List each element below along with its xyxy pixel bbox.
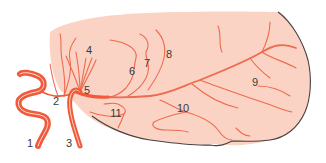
brain-fill	[50, 12, 310, 146]
label-2: 2	[53, 96, 59, 107]
label-9: 9	[252, 77, 258, 88]
label-5: 5	[84, 85, 90, 96]
label-10: 10	[177, 103, 189, 114]
label-1: 1	[27, 138, 33, 149]
label-4: 4	[86, 45, 92, 56]
label-3: 3	[66, 138, 72, 149]
label-8: 8	[166, 49, 172, 60]
artery-diagram	[0, 0, 326, 163]
label-11: 11	[110, 108, 121, 119]
label-6: 6	[129, 66, 135, 77]
brain-hemisphere	[50, 12, 311, 146]
label-7: 7	[144, 58, 150, 69]
